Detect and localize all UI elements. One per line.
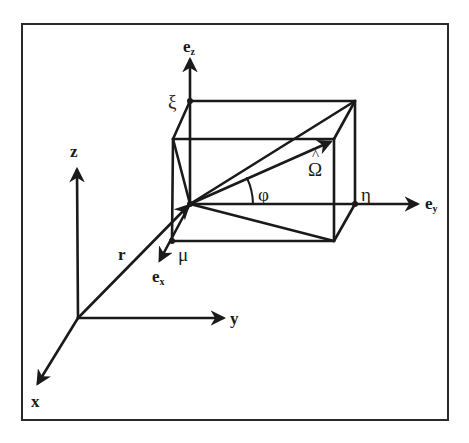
label-r: r — [118, 246, 126, 263]
label-ez: ez — [183, 38, 195, 55]
phi-arc — [247, 178, 253, 204]
label-z: z — [70, 143, 78, 160]
label-eta: η — [361, 185, 371, 204]
label-ey: ey — [425, 195, 438, 212]
label-phi: φ — [258, 185, 269, 204]
label-ex: ex — [152, 268, 165, 285]
label-y: y — [230, 310, 239, 327]
label-omega: Ω — [308, 160, 322, 179]
label-xi: ξ — [168, 92, 176, 111]
label-x: x — [31, 393, 40, 410]
global-z-axis — [77, 170, 78, 318]
global-x-axis — [38, 318, 78, 383]
label-mu: μ — [178, 245, 188, 264]
diagram-lines — [0, 0, 469, 443]
coordinate-diagram: z y x r ez ey ex ξ η μ φ ^ Ω — [0, 0, 469, 443]
